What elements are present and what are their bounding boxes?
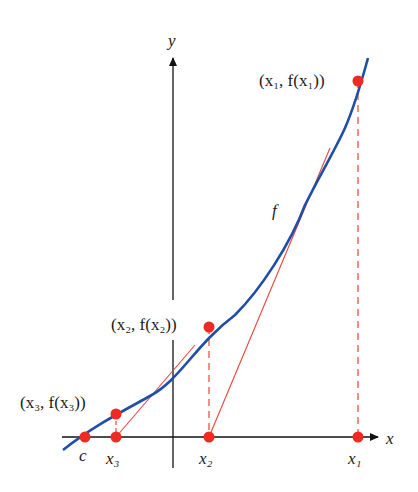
curve-f (63, 58, 368, 450)
diagram-svg: y x f c (x₁, f(x₁)) (x₂, f(x₂)) (x₃, f(x… (0, 0, 418, 492)
axis-label-x3: x₃ (105, 449, 120, 468)
root-label: c (79, 446, 87, 465)
axis-label-x1: x₁ (347, 449, 361, 468)
point-x1-curve (353, 76, 364, 87)
axis-label-x2: x₂ (198, 449, 213, 468)
curve-label: f (272, 201, 279, 220)
point-label-3: (x₃, f(x₃)) (20, 393, 86, 412)
point-x3-curve (111, 409, 122, 420)
y-axis-label: y (166, 31, 176, 50)
diagram-canvas: y x f c (x₁, f(x₁)) (x₂, f(x₂)) (x₃, f(x… (0, 0, 418, 492)
point-root-c (80, 432, 91, 443)
point-x3-axis (111, 432, 122, 443)
point-label-1: (x₁, f(x₁)) (259, 71, 325, 90)
secant-2 (116, 345, 195, 437)
point-x1-axis (353, 432, 364, 443)
point-x2-curve (204, 322, 215, 333)
point-label-2: (x₂, f(x₂)) (111, 315, 177, 334)
point-x2-axis (204, 432, 215, 443)
x-axis-label: x (385, 429, 394, 448)
